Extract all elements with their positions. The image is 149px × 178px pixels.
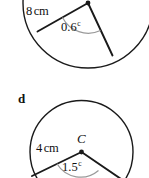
top-radius-unit: cm [34,4,49,18]
bottom-radius-length-label: 4cm [36,142,59,155]
bottom-angle-label: 1.5c [62,160,81,174]
bottom-centre-label: C [77,132,86,145]
bottom-centre-dot [79,150,84,155]
top-centre-dot [86,1,91,6]
geometry-figure-stage: 8cm 0.6c d 4cm C 1.5c [0,0,149,178]
bottom-radius-value: 4 [36,141,42,155]
bottom-radius-unit: cm [44,141,59,155]
part-label-d: d [18,92,25,105]
bottom-radius-right [82,152,125,178]
top-angle-label: 0.6c [61,20,80,34]
bottom-angle-unit: c [78,159,81,168]
top-angle-value: 0.6 [61,20,77,34]
top-radius-length-label: 8cm [26,5,49,18]
bottom-angle-value: 1.5 [62,160,78,174]
top-angle-unit: c [77,19,80,28]
top-radius-right [88,3,113,56]
top-radius-value: 8 [26,4,32,18]
